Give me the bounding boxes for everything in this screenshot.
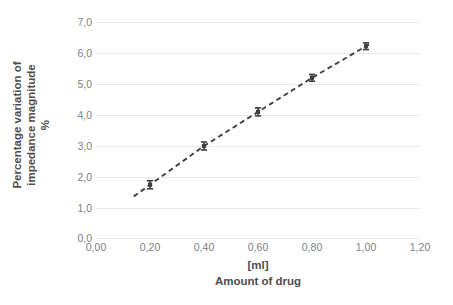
y-tick-label: 1,0 [58, 203, 92, 214]
x-tick-label: 0,00 [71, 240, 121, 254]
y-tick-label: 4,0 [58, 110, 92, 121]
x-axis-tick-labels: 0,00 0,20 0,40 0,60 0,80 1,00 1,20 [0, 240, 453, 256]
x-tick-label: 0,20 [125, 240, 175, 254]
x-tick-label: 0,40 [179, 240, 229, 254]
data-series-layer [96, 22, 420, 239]
x-tick-label: 0,80 [287, 240, 337, 254]
y-tick-label: 7,0 [58, 17, 92, 28]
x-axis-unit-label: [ml] [96, 258, 420, 273]
chart-figure: Percentage variation of impedance magnit… [0, 0, 453, 305]
y-axis-title-line-1: Percentage variation of [10, 61, 24, 188]
trend-line [134, 43, 372, 196]
x-axis-title: [ml] Amount of drug [96, 258, 420, 289]
x-tick-label: 0,60 [233, 240, 283, 254]
y-tick-label: 3,0 [58, 141, 92, 152]
y-axis-title-line-2: impedance magnitude [24, 61, 38, 188]
plot-area [96, 22, 420, 239]
y-axis-title-line-3: % [38, 61, 52, 188]
x-tick-label: 1,00 [341, 240, 391, 254]
y-tick-label: 6,0 [58, 48, 92, 59]
y-tick-label: 5,0 [58, 79, 92, 90]
x-axis-title-label: Amount of drug [96, 273, 420, 289]
y-axis-tick-labels: 7,0 6,0 5,0 4,0 3,0 2,0 1,0 0,0 [56, 0, 92, 250]
y-axis-title: Percentage variation of impedance magnit… [0, 0, 62, 250]
x-tick-label: 1,20 [395, 240, 445, 254]
y-tick-label: 2,0 [58, 172, 92, 183]
